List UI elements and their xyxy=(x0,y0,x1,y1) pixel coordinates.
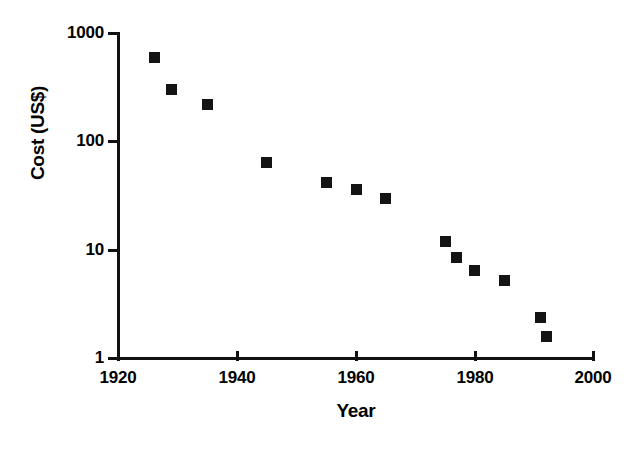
data-point xyxy=(351,184,362,195)
data-point xyxy=(166,84,177,95)
chart-figure: 1000 100 10 1 Cost (US$) 1920 1940 1960 … xyxy=(0,0,624,450)
data-point xyxy=(202,99,213,110)
data-point xyxy=(440,236,451,247)
data-point xyxy=(469,265,480,276)
plot-area xyxy=(0,0,624,450)
data-point xyxy=(321,177,332,188)
data-point xyxy=(535,312,546,323)
data-point xyxy=(451,252,462,263)
data-point xyxy=(261,157,272,168)
data-point xyxy=(499,275,510,286)
data-point xyxy=(149,52,160,63)
data-point xyxy=(541,331,552,342)
data-point xyxy=(380,193,391,204)
